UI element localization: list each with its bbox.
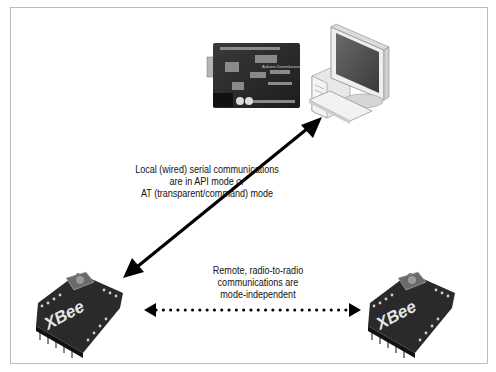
remote-label-line-2: communications are (189, 276, 327, 288)
arduino-board-icon: Arduino Duemilanove (207, 43, 301, 108)
computer-icon (309, 24, 389, 124)
local-label-line-2-text: are in API mode (170, 175, 237, 187)
svg-text:Arduino Duemilanove: Arduino Duemilanove (262, 64, 301, 69)
remote-label-line-1: Remote, radio-to-radio (189, 264, 327, 276)
local-label-line-3: AT (transparent/command) mode (125, 187, 288, 199)
local-communications-label: Local (wired) serial communications are … (125, 163, 288, 199)
xbee-left-icon: XBee (36, 272, 123, 358)
local-label-line-1: Local (wired) serial communications (125, 163, 288, 175)
local-label-line-2-emphasis: or (236, 175, 244, 187)
remote-communications-label: Remote, radio-to-radio communications ar… (189, 264, 327, 300)
xbee-right-icon: XBee (368, 272, 455, 358)
radio-link-arrow (144, 303, 361, 317)
remote-label-line-3: mode-independent (189, 288, 327, 300)
local-label-line-2: are in API mode or (125, 175, 288, 187)
